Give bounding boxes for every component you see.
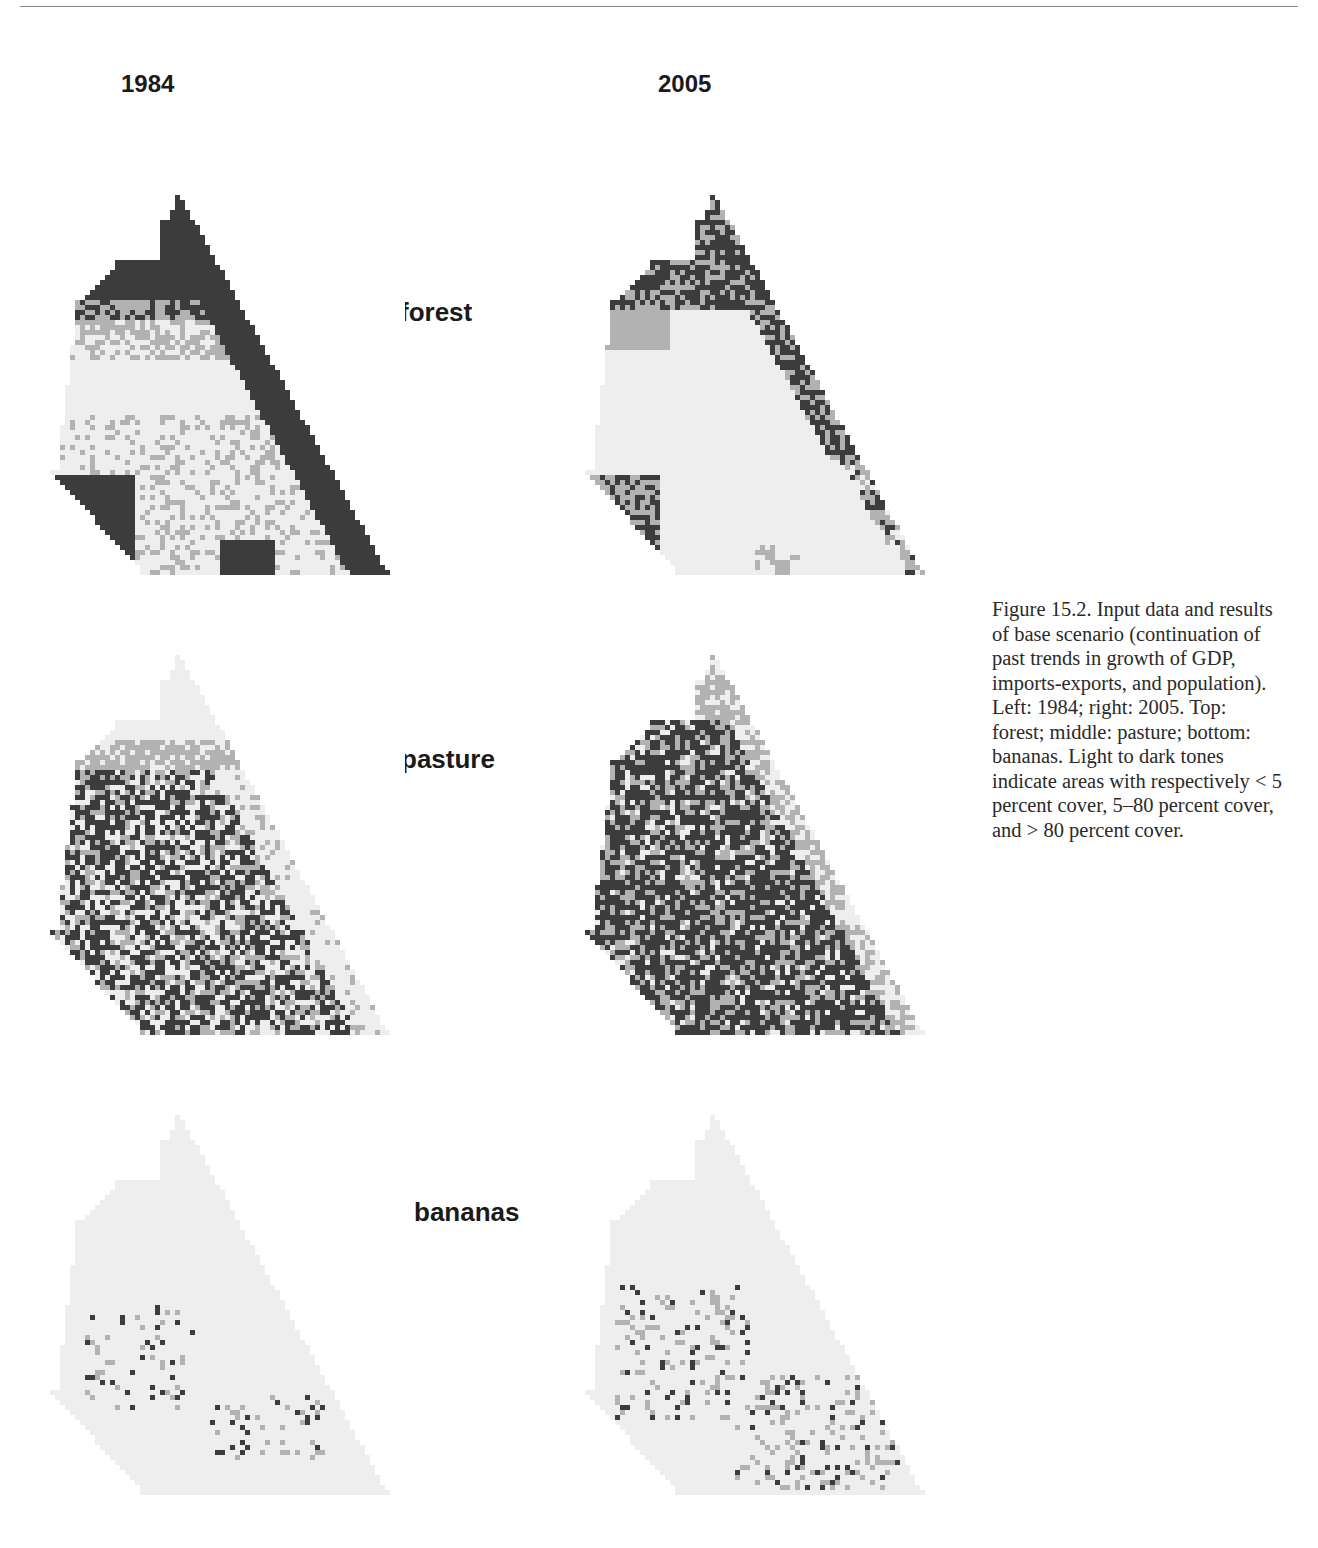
page-header-rule bbox=[20, 6, 1298, 7]
row-label-pasture: pasture bbox=[401, 744, 495, 775]
column-header-2005: 2005 bbox=[658, 70, 711, 98]
row-label-forest: forest bbox=[400, 297, 472, 328]
column-header-1984: 1984 bbox=[121, 70, 174, 98]
map-pasture-1984 bbox=[45, 620, 405, 1040]
row-label-bananas: bananas bbox=[414, 1197, 520, 1228]
figure-caption: Figure 15.2. Input data and results of b… bbox=[992, 597, 1282, 842]
map-forest-1984 bbox=[45, 160, 405, 580]
map-bananas-1984 bbox=[45, 1080, 405, 1500]
map-bananas-2005 bbox=[580, 1080, 940, 1500]
map-pasture-2005 bbox=[580, 620, 940, 1040]
map-forest-2005 bbox=[580, 160, 940, 580]
